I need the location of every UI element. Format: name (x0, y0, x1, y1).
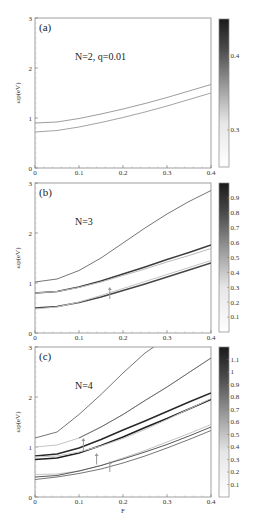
y-tick-label: 0 (29, 330, 33, 338)
panel-annotation: N=3 (75, 216, 93, 227)
y-tick-label: 1 (29, 280, 33, 288)
panel-annotation: N=2, q=0.01 (75, 51, 126, 62)
colorbar-tick-label: 0.8 (231, 393, 240, 401)
colorbar-tick-label: 0.8 (231, 209, 240, 217)
x-tick-label: 0.1 (75, 498, 84, 506)
series-line-mode-5 (35, 261, 211, 310)
arrow-head-icon (95, 453, 99, 456)
y-tick-label: 0 (29, 494, 33, 502)
series-line-mode-5 (35, 399, 211, 458)
colorbar-tick-label: 0.4 (231, 269, 240, 277)
colorbar-tick-label: 1.1 (231, 356, 240, 364)
series-line-mode-2 (35, 93, 211, 132)
y-tick-label: 2 (29, 230, 33, 238)
plot-frame (35, 18, 211, 168)
y-tick-label: 3 (29, 15, 33, 23)
x-tick-label: 0 (33, 169, 37, 177)
x-tick-label: 0.1 (75, 334, 84, 342)
x-tick-label: 0.2 (119, 334, 128, 342)
figure: 00.10.20.30.40123ωp(eV)(a)N=2, q=0.010.4… (0, 0, 254, 530)
series-line-mode-6 (35, 425, 211, 475)
colorbar-tick-label: 0.6 (231, 418, 240, 426)
y-tick-label: 3 (29, 344, 33, 352)
x-tick-label: 0.4 (207, 498, 216, 506)
x-tick-label: 0.3 (163, 169, 172, 177)
colorbar-tick-label: 0.9 (231, 381, 240, 389)
x-tick-label: 0 (33, 498, 37, 506)
x-tick-label: 0.3 (163, 498, 172, 506)
series-line-mode-4 (35, 263, 211, 308)
panel-label: (a) (39, 21, 52, 34)
arrow-head-icon (81, 438, 85, 441)
colorbar-tick-label: 0.7 (231, 224, 240, 232)
panel-label: (c) (39, 350, 52, 363)
x-tick-label: 0.2 (119, 498, 128, 506)
y-tick-label: 1 (29, 444, 33, 452)
panel-label: (b) (39, 186, 52, 199)
colorbar-tick-label: 0.3 (231, 126, 240, 134)
colorbar-tick-label: 0.3 (231, 284, 240, 292)
colorbar-tick-label: 1 (231, 368, 235, 376)
colorbar (219, 19, 229, 167)
x-tick-label: 0.3 (163, 334, 172, 342)
x-tick-label: 0.2 (119, 169, 128, 177)
y-tick-label: 3 (29, 180, 33, 188)
colorbar-tick-label: 0.9 (231, 194, 240, 202)
panel-annotation: N=4 (75, 380, 93, 391)
x-tick-label: 0.1 (75, 169, 84, 177)
colorbar-tick-label: 0.2 (231, 299, 240, 307)
panel-c: 00.10.20.30.40123ωp(eV)F(c)N=41.110.90.8… (14, 344, 240, 516)
colorbar-tick-label: 0.7 (231, 406, 240, 414)
colorbar-tick-label: 0.1 (231, 313, 240, 321)
series-line-mode-1 (35, 191, 211, 283)
series-line-mode-2 (35, 358, 211, 447)
series-line-mode-2b (79, 358, 211, 438)
y-tick-label: 2 (29, 394, 33, 402)
plot-frame (35, 183, 211, 333)
y-axis-label: ωp(eV) (14, 411, 22, 433)
y-axis-label: ωp(eV) (14, 247, 22, 269)
y-tick-label: 1 (29, 115, 33, 123)
series-line-mode-3 (35, 393, 211, 456)
colorbar-tick-label: 0.3 (231, 456, 240, 464)
arrow-head-icon (108, 287, 112, 290)
x-tick-label: 0.4 (207, 334, 216, 342)
x-tick-label: 0.4 (207, 169, 216, 177)
colorbar-tick-label: 0.1 (231, 481, 240, 489)
x-tick-label: 0 (33, 334, 37, 342)
colorbar-tick-label: 0.5 (231, 254, 240, 262)
colorbar-tick-label: 0.5 (231, 431, 240, 439)
colorbar-tick-label: 0.2 (231, 468, 240, 476)
x-axis-label: F (121, 507, 125, 515)
colorbar-tick-label: 0.6 (231, 239, 240, 247)
colorbar-tick-label: 0.4 (231, 443, 240, 451)
colorbar-tick-label: 0.4 (231, 52, 240, 60)
y-tick-label: 0 (29, 165, 33, 173)
panel-a: 00.10.20.30.40123ωp(eV)(a)N=2, q=0.010.4… (14, 15, 240, 178)
panel-b: 00.10.20.30.40123ωp(eV)(b)N=30.90.80.70.… (14, 180, 240, 343)
y-tick-label: 2 (29, 65, 33, 73)
series-line-mode-7 (35, 427, 211, 477)
y-axis-label: ωp(eV) (14, 82, 22, 104)
